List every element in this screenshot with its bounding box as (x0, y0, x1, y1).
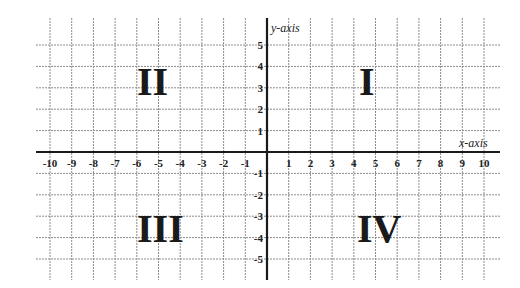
y-tick-label: -5 (254, 253, 264, 265)
quadrant-1-label: I (359, 59, 375, 104)
y-tick-label: 1 (258, 125, 264, 137)
quadrant-3-label: III (137, 206, 184, 251)
y-tick-label: 5 (258, 39, 264, 51)
y-tick-label: -4 (254, 232, 264, 244)
x-tick-label: -10 (43, 157, 58, 169)
x-tick-label: 3 (329, 157, 335, 169)
y-tick-label: -2 (254, 189, 264, 201)
quadrant-2-label: II (137, 59, 168, 104)
x-tick-label: -7 (111, 157, 121, 169)
x-tick-label: 6 (394, 157, 400, 169)
x-tick-label: 7 (416, 157, 422, 169)
x-tick-label: -1 (241, 157, 250, 169)
x-tick-label: -2 (219, 157, 229, 169)
x-tick-label: 2 (308, 157, 314, 169)
y-tick-label: 2 (258, 103, 264, 115)
x-tick-label: 1 (286, 157, 292, 169)
x-tick-label: -6 (132, 157, 142, 169)
x-tick-label: 9 (460, 157, 466, 169)
y-tick-label: -1 (254, 167, 263, 179)
x-tick-label: -5 (154, 157, 164, 169)
x-tick-label: 10 (479, 157, 491, 169)
y-axis-title: y-axis (270, 21, 300, 35)
y-tick-label: -3 (254, 210, 264, 222)
x-tick-label: 5 (373, 157, 379, 169)
x-tick-label: 8 (438, 157, 444, 169)
x-tick-label: -4 (176, 157, 186, 169)
quadrant-4-label: IV (357, 206, 402, 251)
x-tick-label: -9 (67, 157, 77, 169)
x-tick-label: 4 (351, 157, 357, 169)
x-tick-label: -8 (89, 157, 99, 169)
x-tick-label: -3 (197, 157, 207, 169)
y-tick-label: 4 (258, 60, 264, 72)
y-tick-label: 3 (258, 82, 264, 94)
axes (36, 18, 500, 280)
x-axis-title: x-axis (458, 136, 488, 150)
coordinate-plane: -10-9-8-7-6-5-4-3-2-112345678910 54321-1… (0, 0, 520, 288)
